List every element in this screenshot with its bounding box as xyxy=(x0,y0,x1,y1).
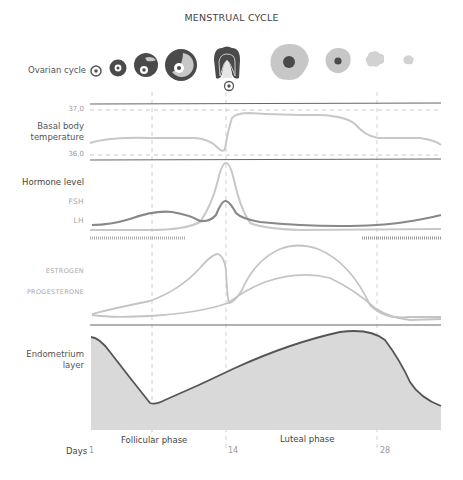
bbt-label-line1: Basal body xyxy=(0,121,84,132)
bbt-curve xyxy=(90,113,441,151)
estrogen-progesterone-section xyxy=(90,246,441,326)
bbt-label-line2: temperature xyxy=(0,132,84,143)
endometrium-section xyxy=(91,331,441,430)
bbt-section xyxy=(90,103,441,160)
bbt-tick-low: 36,0 xyxy=(0,150,84,158)
corpus-luteum-icon xyxy=(270,44,308,80)
day-tick-1: 1 xyxy=(89,446,94,455)
progesterone-curve xyxy=(92,275,441,320)
fsh-lh-section xyxy=(90,163,441,238)
hormone-level-label: Hormone level xyxy=(0,177,84,188)
ovulation-icon xyxy=(214,47,240,91)
ovarian-cycle-label: Ovarian cycle xyxy=(0,65,86,76)
fsh-label: FSH xyxy=(0,197,84,206)
endometrium-label-line1: Endometrium xyxy=(0,349,84,360)
estrogen-label: ESTROGEN xyxy=(0,267,84,275)
graafian-follicle-icon xyxy=(165,49,197,81)
follicular-phase-label: Follicular phase xyxy=(121,435,187,445)
bbt-tick-high: 37,0 xyxy=(0,105,84,113)
corpus-luteum-regressing-icon xyxy=(326,48,351,73)
ovarian-cycle-icons xyxy=(91,44,414,91)
primary-follicle-icon xyxy=(110,60,127,77)
lh-label: LH xyxy=(0,216,84,225)
day-tick-28: 28 xyxy=(380,446,390,455)
corpus-albicans-icon xyxy=(366,51,384,66)
primordial-follicle-icon xyxy=(91,66,101,76)
days-label: Days xyxy=(66,446,87,457)
endometrium-label-line2: layer xyxy=(0,360,84,371)
day-tick-14: 14 xyxy=(228,446,238,455)
progesterone-label: PROGESTERONE xyxy=(0,288,84,296)
secondary-follicle-icon xyxy=(134,53,158,77)
corpus-albicans-small-icon xyxy=(403,55,413,64)
luteal-phase-label: Luteal phase xyxy=(280,434,334,444)
fsh-curve xyxy=(92,201,441,226)
lh-curve xyxy=(90,163,441,230)
